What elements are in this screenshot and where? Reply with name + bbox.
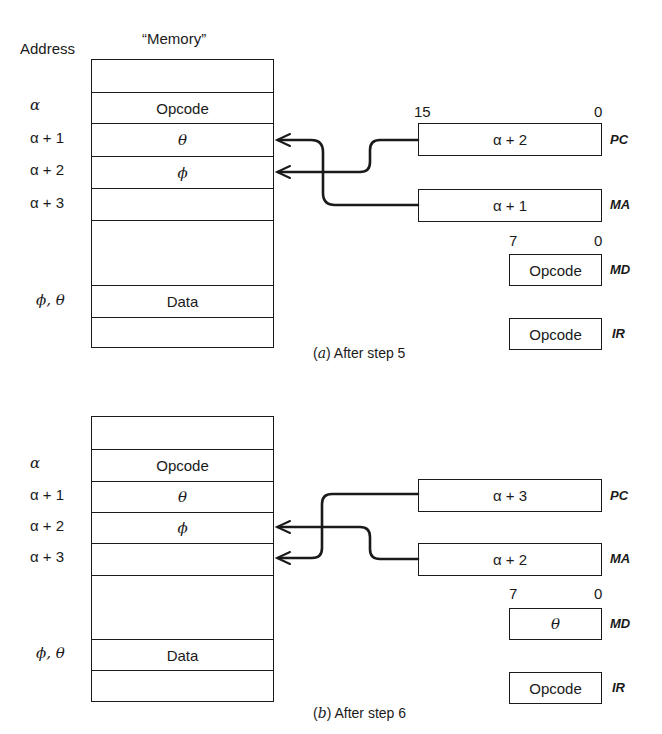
arrow-pc-a bbox=[278, 140, 418, 172]
pointer-arrows bbox=[0, 0, 662, 734]
arrow-ma-b bbox=[278, 527, 418, 559]
